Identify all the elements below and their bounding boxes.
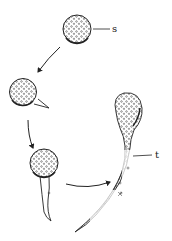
spore-stage-1	[63, 15, 110, 43]
arrow-1-icon	[38, 47, 60, 72]
tube-label: t	[155, 150, 159, 160]
spore-stage-2	[10, 79, 50, 109]
spore-stage-4	[75, 93, 152, 232]
spore-stage-3	[30, 149, 58, 221]
arrow-3-icon	[66, 182, 110, 187]
spore-label: s	[112, 24, 117, 34]
germination-diagram	[0, 0, 172, 241]
tube-label-line	[133, 155, 152, 156]
arrow-2-icon	[28, 120, 33, 148]
